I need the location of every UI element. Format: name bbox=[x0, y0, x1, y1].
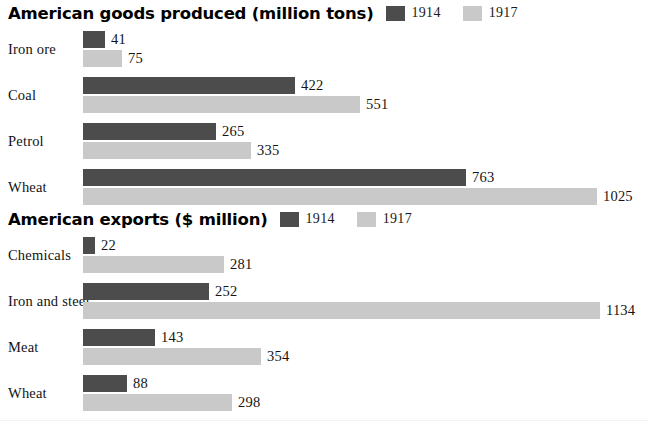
legend-label-1917: 1917 bbox=[383, 211, 412, 227]
bar-value-1914: 22 bbox=[101, 237, 116, 254]
chart-legend: 1914 1917 bbox=[386, 5, 540, 21]
row-label: Chemicals bbox=[8, 232, 71, 278]
row-bars: 252 1134 bbox=[83, 278, 648, 324]
bar-1914 bbox=[83, 375, 127, 392]
row-label: Wheat bbox=[8, 164, 47, 210]
bar-group-1917: 298 bbox=[83, 394, 260, 411]
row-label: Iron ore bbox=[8, 26, 56, 72]
bar-group-1917: 281 bbox=[83, 256, 252, 273]
row-label: Iron and steel bbox=[8, 278, 90, 324]
table-row: Iron and steel 252 1134 bbox=[0, 278, 648, 324]
chart-goods-produced: American goods produced (million tons) 1… bbox=[0, 0, 648, 210]
row-bars: 41 75 bbox=[83, 26, 648, 72]
bar-group-1914: 763 bbox=[83, 169, 494, 186]
bar-1914 bbox=[83, 77, 295, 94]
bar-1917 bbox=[83, 256, 224, 273]
bottom-divider bbox=[0, 420, 648, 421]
bar-value-1917: 298 bbox=[238, 394, 260, 411]
bar-1917 bbox=[83, 188, 597, 205]
table-row: Petrol 265 335 bbox=[0, 118, 648, 164]
table-row: Coal 422 551 bbox=[0, 72, 648, 118]
bar-group-1914: 143 bbox=[83, 329, 183, 346]
bar-group-1914: 22 bbox=[83, 237, 116, 254]
bar-value-1914: 88 bbox=[133, 375, 148, 392]
bar-1917 bbox=[83, 142, 251, 159]
bar-value-1917: 75 bbox=[128, 50, 143, 67]
legend-swatch-1917-icon bbox=[357, 212, 376, 227]
chart-page: American goods produced (million tons) 1… bbox=[0, 0, 648, 427]
bar-1914 bbox=[83, 123, 216, 140]
bar-1917 bbox=[83, 394, 232, 411]
legend-item-1914: 1914 bbox=[386, 5, 441, 21]
table-row: Chemicals 22 281 bbox=[0, 232, 648, 278]
row-bars: 763 1025 bbox=[83, 164, 648, 210]
bar-group-1914: 265 bbox=[83, 123, 244, 140]
bar-group-1917: 1025 bbox=[83, 188, 633, 205]
bar-1914 bbox=[83, 237, 95, 254]
legend-label-1914: 1914 bbox=[306, 211, 335, 227]
row-bars: 88 298 bbox=[83, 370, 648, 416]
bar-value-1917: 1134 bbox=[606, 302, 635, 319]
legend-swatch-1914-icon bbox=[280, 212, 299, 227]
bar-group-1914: 41 bbox=[83, 31, 126, 48]
bar-1914 bbox=[83, 283, 209, 300]
table-row: Wheat 763 1025 bbox=[0, 164, 648, 210]
row-bars: 22 281 bbox=[83, 232, 648, 278]
legend-item-1917: 1917 bbox=[357, 211, 412, 227]
bar-group-1914: 88 bbox=[83, 375, 148, 392]
bar-1914 bbox=[83, 329, 155, 346]
bar-1917 bbox=[83, 50, 122, 67]
chart-header: American exports ($ million) 1914 1917 bbox=[0, 206, 648, 232]
bar-1917 bbox=[83, 348, 261, 365]
bar-1917 bbox=[83, 302, 600, 319]
bar-group-1917: 75 bbox=[83, 50, 143, 67]
table-row: Wheat 88 298 bbox=[0, 370, 648, 416]
row-bars: 265 335 bbox=[83, 118, 648, 164]
chart-legend: 1914 1917 bbox=[280, 211, 434, 227]
row-bars: 422 551 bbox=[83, 72, 648, 118]
bar-group-1914: 252 bbox=[83, 283, 237, 300]
row-label: Petrol bbox=[8, 118, 44, 164]
bar-group-1917: 1134 bbox=[83, 302, 635, 319]
bar-value-1917: 354 bbox=[267, 348, 289, 365]
chart-title: American goods produced (million tons) bbox=[8, 4, 374, 23]
bar-group-1914: 422 bbox=[83, 77, 323, 94]
table-row: Meat 143 354 bbox=[0, 324, 648, 370]
row-bars: 143 354 bbox=[83, 324, 648, 370]
legend-swatch-1917-icon bbox=[463, 6, 482, 21]
bar-value-1914: 41 bbox=[111, 31, 126, 48]
chart-exports: American exports ($ million) 1914 1917 C… bbox=[0, 206, 648, 416]
legend-item-1917: 1917 bbox=[463, 5, 518, 21]
bar-value-1917: 1025 bbox=[603, 188, 633, 205]
chart-rows: Chemicals 22 281 Iron and steel bbox=[0, 232, 648, 416]
bar-value-1917: 335 bbox=[257, 142, 279, 159]
chart-title: American exports ($ million) bbox=[8, 210, 268, 229]
row-label: Meat bbox=[8, 324, 39, 370]
table-row: Iron ore 41 75 bbox=[0, 26, 648, 72]
bar-value-1917: 281 bbox=[230, 256, 252, 273]
row-label: Coal bbox=[8, 72, 36, 118]
bar-value-1917: 551 bbox=[366, 96, 388, 113]
bar-group-1917: 335 bbox=[83, 142, 279, 159]
legend-item-1914: 1914 bbox=[280, 211, 335, 227]
bar-1914 bbox=[83, 31, 105, 48]
bar-value-1914: 265 bbox=[222, 123, 244, 140]
bar-group-1917: 551 bbox=[83, 96, 388, 113]
bar-1917 bbox=[83, 96, 360, 113]
bar-group-1917: 354 bbox=[83, 348, 289, 365]
bar-value-1914: 143 bbox=[161, 329, 183, 346]
bar-1914 bbox=[83, 169, 466, 186]
legend-swatch-1914-icon bbox=[386, 6, 405, 21]
bar-value-1914: 763 bbox=[472, 169, 494, 186]
chart-header: American goods produced (million tons) 1… bbox=[0, 0, 648, 26]
bar-value-1914: 422 bbox=[301, 77, 323, 94]
bar-value-1914: 252 bbox=[215, 283, 237, 300]
chart-rows: Iron ore 41 75 Coal bbox=[0, 26, 648, 210]
row-label: Wheat bbox=[8, 370, 47, 416]
legend-label-1917: 1917 bbox=[489, 5, 518, 21]
legend-label-1914: 1914 bbox=[412, 5, 441, 21]
